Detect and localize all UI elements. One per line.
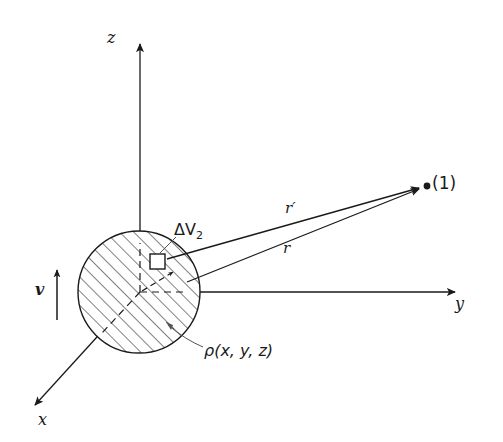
velocity-label: v	[35, 282, 44, 298]
delta-volume-symbol: ΔV	[174, 220, 196, 239]
physics-diagram: z y x v ΔV2 r′ r (1) ρ(x, y, z)	[0, 0, 503, 442]
delta-volume-label: ΔV2	[174, 222, 203, 241]
delta-volume-square	[150, 254, 165, 269]
field-point-label: (1)	[432, 175, 456, 192]
vector-r-prime-label: r′	[285, 201, 296, 216]
diagram-canvas	[0, 0, 503, 442]
y-axis-label: y	[455, 296, 464, 312]
charge-density-label: ρ(x, y, z)	[204, 343, 273, 359]
field-point-dot	[424, 183, 431, 190]
delta-volume-subscript: 2	[196, 229, 203, 242]
z-axis-label: z	[107, 30, 115, 46]
x-axis-line	[35, 326, 107, 405]
x-axis-label: x	[38, 412, 47, 428]
vector-r-line	[187, 189, 419, 282]
vector-r-label: r	[283, 241, 290, 256]
